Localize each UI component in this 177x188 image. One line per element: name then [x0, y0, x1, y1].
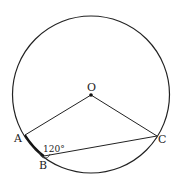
- geometry-diagram: O A B C 120°: [0, 0, 177, 188]
- segment-oc: [91, 95, 157, 136]
- angle-label: 120°: [43, 144, 65, 154]
- label-c: C: [158, 133, 166, 146]
- arc-ab: [25, 135, 44, 156]
- segment-oa: [25, 95, 91, 135]
- label-o: O: [87, 81, 96, 94]
- label-b: B: [39, 159, 47, 172]
- label-a: A: [13, 132, 23, 145]
